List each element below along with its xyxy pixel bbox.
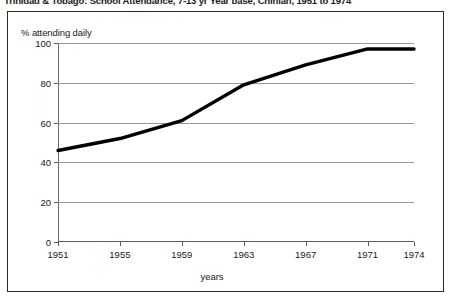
x-tick-label-1974: 1974	[403, 249, 424, 260]
y-tick-label-80: 80	[40, 77, 51, 88]
x-axis-title: years	[200, 271, 223, 282]
x-tick-mark-1959	[182, 242, 183, 246]
x-tick-mark-1955	[120, 242, 121, 246]
y-tick-label-60: 60	[40, 117, 51, 128]
x-tick-mark-1967	[306, 242, 307, 246]
chart-title-strip: Trinidad & Tobago: School Attendance, 7-…	[0, 0, 452, 9]
x-tick-mark-1971	[368, 242, 369, 246]
chart-page: Trinidad & Tobago: School Attendance, 7-…	[0, 0, 452, 304]
x-tick-label-1951: 1951	[47, 249, 68, 260]
series-line-attending-daily	[58, 49, 414, 150]
x-tick-label-1971: 1971	[357, 249, 378, 260]
y-tick-label-20: 20	[40, 197, 51, 208]
x-tick-mark-1951	[58, 242, 59, 246]
y-tick-label-40: 40	[40, 157, 51, 168]
x-tick-label-1955: 1955	[109, 249, 130, 260]
plot-area: 020406080100 195119551959196319671971197…	[58, 43, 414, 242]
x-tick-label-1967: 1967	[295, 249, 316, 260]
x-tick-label-1963: 1963	[233, 249, 254, 260]
x-tick-label-1959: 1959	[171, 249, 192, 260]
y-tick-label-0: 0	[46, 237, 51, 248]
chart-title: Trinidad & Tobago: School Attendance, 7-…	[4, 0, 351, 6]
x-tick-mark-1974	[414, 242, 415, 246]
y-axis-label: % attending daily	[21, 27, 92, 38]
data-series-layer	[58, 43, 414, 242]
x-tick-mark-1963	[244, 242, 245, 246]
y-tick-label-100: 100	[35, 38, 51, 49]
